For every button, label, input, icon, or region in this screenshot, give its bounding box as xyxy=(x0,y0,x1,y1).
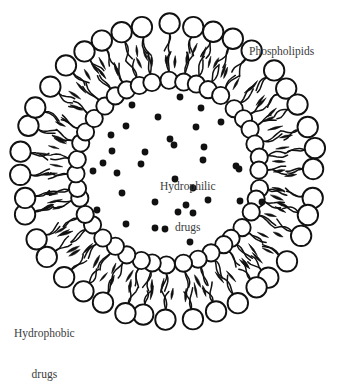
phospholipid-head-outer xyxy=(183,17,203,37)
phospholipid-head-inner xyxy=(212,87,229,104)
phospholipid-head-outer xyxy=(206,301,226,321)
phospholipid-head-outer xyxy=(10,165,30,185)
hydrophilic-drug xyxy=(193,124,200,131)
phospholipid-head-outer xyxy=(56,55,76,75)
phospholipid-head-inner xyxy=(175,255,192,272)
phospholipid-head-inner xyxy=(250,162,267,179)
hydrophilic-drug xyxy=(167,136,174,143)
phospholipid-head-outer xyxy=(277,251,297,271)
phospholipid-head-outer xyxy=(111,22,131,42)
hydrophilic-drug xyxy=(119,190,126,197)
hydrophilic-drug xyxy=(123,221,130,228)
phospholipid-head-outer xyxy=(246,277,266,297)
hydrophilic-drug xyxy=(237,198,244,205)
hydrophilic-drug xyxy=(259,199,266,206)
label-hydrophobic-line2: drugs xyxy=(14,368,75,382)
phospholipid-head-outer xyxy=(298,117,318,137)
phospholipid-head-outer xyxy=(203,22,223,42)
phospholipid-head-outer xyxy=(93,292,113,312)
phospholipid-head-outer xyxy=(159,13,179,33)
phospholipid-head-outer xyxy=(305,138,325,158)
phospholipid-head-outer xyxy=(298,205,318,225)
hydrophilic-drug xyxy=(94,207,101,214)
phospholipid-head-outer xyxy=(40,76,60,96)
hydrophilic-drug xyxy=(218,119,225,126)
hydrophilic-drug xyxy=(177,94,184,101)
label-hydrophilic-line1: Hydrophilic xyxy=(160,180,216,194)
label-hydrophobic-line1: Hydrophobic xyxy=(14,327,75,341)
hydrophilic-drug xyxy=(236,166,243,173)
phospholipid-head-outer xyxy=(115,303,135,323)
label-hydrophilic-line2: drugs xyxy=(160,221,216,235)
phospholipid-head-outer xyxy=(223,29,243,49)
phospholipid-head-outer xyxy=(287,94,307,114)
phospholipid-head-outer xyxy=(183,309,203,329)
phospholipid-head-outer xyxy=(15,188,35,208)
hydrophilic-drug xyxy=(155,114,162,121)
hydrophilic-drug xyxy=(171,142,178,149)
phospholipid-head-outer xyxy=(155,309,175,329)
hydrophilic-drug xyxy=(152,199,159,206)
hydrophilic-drug xyxy=(123,123,130,130)
hydrophilic-drug xyxy=(90,168,97,175)
phospholipid-head-outer xyxy=(228,293,248,313)
hydrophilic-drug xyxy=(114,170,121,177)
hydrophilic-drug xyxy=(198,105,205,112)
label-phospholipids-text: Phospholipids xyxy=(249,45,314,59)
hydrophilic-drug xyxy=(142,149,149,156)
phospholipid-head-outer xyxy=(10,141,30,161)
hydrophilic-drug xyxy=(129,102,136,109)
hydrophilic-drug xyxy=(109,148,116,155)
phospholipid-head-outer xyxy=(73,281,93,301)
phospholipid-head-outer xyxy=(54,267,74,287)
label-phospholipids: Phospholipids xyxy=(249,18,314,72)
phospholipid-head-inner xyxy=(143,74,160,91)
phospholipid-head-outer xyxy=(303,159,323,179)
hydrophilic-drug xyxy=(138,161,145,168)
hydrophilic-drug xyxy=(100,160,107,167)
phospholipid-head-inner xyxy=(69,151,86,168)
phospholipid-head-inner xyxy=(243,203,260,220)
hydrophilic-drug xyxy=(201,144,208,151)
hydrophilic-drug xyxy=(108,132,115,139)
phospholipid-head-outer xyxy=(26,229,46,249)
label-hydrophobic-drugs: Hydrophobic drugs xyxy=(14,300,75,385)
phospholipid-head-outer xyxy=(25,97,45,117)
phospholipid-head-outer xyxy=(132,17,152,37)
phospholipid-head-inner xyxy=(77,206,94,223)
hydrophilic-drug xyxy=(152,225,159,232)
label-hydrophilic-drugs: Hydrophilic drugs xyxy=(160,153,216,248)
phospholipid-head-outer xyxy=(291,226,311,246)
phospholipid-head-outer xyxy=(92,30,112,50)
